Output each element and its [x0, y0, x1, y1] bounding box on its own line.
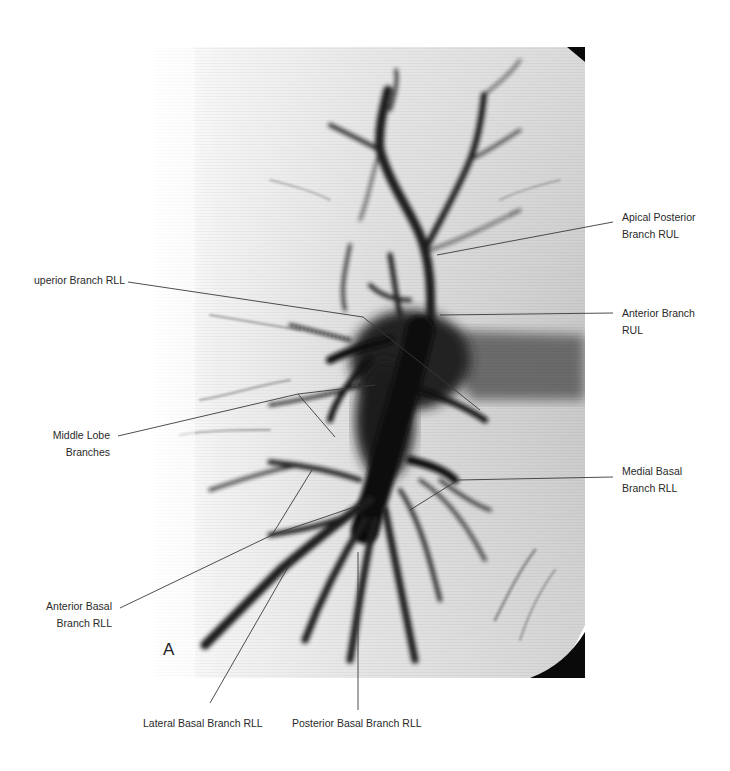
label-line: Apical Posterior: [622, 209, 696, 226]
panel-letter: A: [163, 640, 174, 660]
label-lateral-basal-branch-rll: Lateral Basal Branch RLL: [143, 715, 263, 732]
label-line: Medial Basal: [622, 463, 682, 480]
label-line: RUL: [622, 322, 695, 339]
label-anterior-branch-rul: Anterior Branch RUL: [622, 305, 695, 339]
label-line: Branch RLL: [622, 480, 682, 497]
label-apical-posterior-branch-rul: Apical Posterior Branch RUL: [622, 209, 696, 243]
pulmonary-angiogram-image: [0, 0, 730, 771]
label-superior-branch-rll: uperior Branch RLL: [34, 272, 125, 289]
label-middle-lobe-branches: Middle Lobe Branches: [50, 427, 110, 461]
label-line: Middle Lobe: [50, 427, 110, 444]
label-posterior-basal-branch-rll: Posterior Basal Branch RLL: [292, 715, 422, 732]
label-medial-basal-branch-rll: Medial Basal Branch RLL: [622, 463, 682, 497]
label-line: Branch RUL: [622, 226, 696, 243]
angiogram-figure: uperior Branch RLL Apical Posterior Bran…: [0, 0, 730, 771]
label-anterior-basal-branch-rll: Anterior Basal Branch RLL: [38, 598, 112, 632]
label-line: Branch RLL: [38, 615, 112, 632]
label-line: Anterior Basal: [38, 598, 112, 615]
label-line: Anterior Branch: [622, 305, 695, 322]
label-line: Branches: [50, 444, 110, 461]
